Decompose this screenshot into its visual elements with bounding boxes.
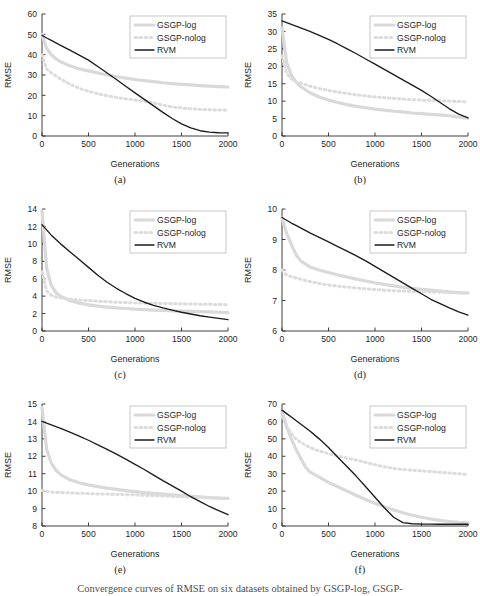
- svg-text:10: 10: [267, 204, 277, 214]
- legend-label-gsgp-nolog: GSGP-nolog: [157, 423, 206, 433]
- svg-text:35: 35: [267, 9, 277, 19]
- legend-label-gsgp-log: GSGP-log: [157, 20, 196, 30]
- x-axis-label: Generations: [350, 354, 400, 364]
- y-axis-label: RMSE: [243, 452, 253, 478]
- svg-text:15: 15: [27, 399, 37, 409]
- chart-panel-d: 6789100500100015002000GenerationsRMSEGSG…: [240, 195, 480, 390]
- chart-legend: GSGP-logGSGP-nologRVM: [130, 211, 226, 253]
- x-axis-label: Generations: [350, 159, 400, 169]
- svg-text:2000: 2000: [218, 139, 237, 149]
- svg-text:11: 11: [28, 469, 37, 479]
- svg-text:2000: 2000: [458, 529, 477, 539]
- chart-svg: 0102030405060700500100015002000Generatio…: [240, 390, 480, 562]
- y-axis-label: RMSE: [3, 452, 13, 478]
- y-axis-label: RMSE: [243, 257, 253, 283]
- svg-text:0: 0: [280, 529, 285, 539]
- svg-text:2000: 2000: [218, 334, 237, 344]
- svg-text:10: 10: [267, 96, 277, 106]
- svg-text:60: 60: [267, 417, 277, 427]
- svg-text:1500: 1500: [412, 334, 431, 344]
- svg-text:500: 500: [321, 334, 336, 344]
- svg-text:30: 30: [27, 70, 37, 80]
- svg-text:10: 10: [27, 111, 37, 121]
- svg-text:500: 500: [81, 529, 96, 539]
- svg-text:30: 30: [267, 469, 277, 479]
- series-line-gsgp-nolog: [282, 56, 468, 102]
- x-axis-label: Generations: [110, 159, 160, 169]
- chart-svg: 024681012140500100015002000GenerationsRM…: [0, 195, 240, 367]
- legend-label-gsgp-log: GSGP-log: [157, 215, 196, 225]
- chart-panel-f: 0102030405060700500100015002000Generatio…: [240, 390, 480, 580]
- series-line-gsgp-nolog: [42, 55, 228, 111]
- svg-text:500: 500: [81, 139, 96, 149]
- svg-text:9: 9: [272, 235, 277, 245]
- plot-area: 01020304050600500100015002000Generations…: [0, 0, 240, 172]
- svg-text:6: 6: [272, 326, 277, 336]
- legend-label-gsgp-log: GSGP-log: [397, 410, 436, 420]
- svg-text:8: 8: [32, 256, 37, 266]
- svg-text:10: 10: [267, 504, 277, 514]
- plot-area: 6789100500100015002000GenerationsRMSEGSG…: [240, 195, 480, 367]
- svg-text:1500: 1500: [172, 334, 191, 344]
- svg-text:0: 0: [32, 131, 37, 141]
- chart-legend: GSGP-logGSGP-nologRVM: [370, 16, 466, 58]
- legend-label-rvm: RVM: [397, 45, 416, 55]
- svg-text:9: 9: [32, 504, 37, 514]
- series-line-gsgp-nolog: [42, 272, 228, 305]
- svg-text:0: 0: [40, 334, 45, 344]
- x-axis-label: Generations: [110, 354, 160, 364]
- svg-text:0: 0: [280, 139, 285, 149]
- svg-text:1000: 1000: [365, 529, 384, 539]
- panel-label: (d): [240, 369, 480, 380]
- svg-text:1000: 1000: [125, 334, 144, 344]
- svg-text:25: 25: [267, 44, 277, 54]
- chart-panel-e: 891011121314150500100015002000Generation…: [0, 390, 240, 580]
- figure-caption-clip: Convergence curves of RMSE on six datase…: [0, 582, 480, 596]
- chart-legend: GSGP-logGSGP-nologRVM: [130, 406, 226, 448]
- svg-text:0: 0: [272, 131, 277, 141]
- legend-label-gsgp-log: GSGP-log: [397, 215, 436, 225]
- panel-label: (c): [0, 369, 240, 380]
- chart-svg: 01020304050600500100015002000Generations…: [0, 0, 240, 172]
- svg-text:14: 14: [27, 204, 37, 214]
- legend-label-gsgp-nolog: GSGP-nolog: [397, 33, 446, 43]
- panel-label: (e): [0, 564, 240, 575]
- x-axis-label: Generations: [350, 549, 400, 559]
- svg-text:5: 5: [272, 114, 277, 124]
- svg-text:2000: 2000: [218, 529, 237, 539]
- svg-text:1000: 1000: [125, 139, 144, 149]
- legend-label-gsgp-log: GSGP-log: [397, 20, 436, 30]
- svg-text:60: 60: [27, 9, 37, 19]
- chart-legend: GSGP-logGSGP-nologRVM: [370, 406, 466, 448]
- svg-text:15: 15: [267, 79, 277, 89]
- panel-label: (b): [240, 174, 480, 185]
- svg-text:500: 500: [321, 139, 336, 149]
- chart-panel-c: 024681012140500100015002000GenerationsRM…: [0, 195, 240, 390]
- legend-label-gsgp-nolog: GSGP-nolog: [397, 423, 446, 433]
- svg-text:6: 6: [32, 274, 37, 284]
- svg-text:40: 40: [267, 451, 277, 461]
- svg-text:1000: 1000: [365, 139, 384, 149]
- legend-label-rvm: RVM: [397, 240, 416, 250]
- svg-text:0: 0: [40, 139, 45, 149]
- svg-text:0: 0: [272, 521, 277, 531]
- figure-caption: Convergence curves of RMSE on six datase…: [0, 582, 480, 595]
- plot-area: 891011121314150500100015002000Generation…: [0, 390, 240, 562]
- chart-panel-a: 01020304050600500100015002000Generations…: [0, 0, 240, 195]
- svg-text:20: 20: [27, 91, 37, 101]
- svg-text:8: 8: [272, 265, 277, 275]
- svg-text:12: 12: [27, 222, 37, 232]
- svg-text:0: 0: [280, 334, 285, 344]
- svg-text:10: 10: [27, 486, 37, 496]
- svg-text:1000: 1000: [125, 529, 144, 539]
- svg-text:20: 20: [267, 486, 277, 496]
- legend-label-gsgp-nolog: GSGP-nolog: [157, 33, 206, 43]
- svg-text:10: 10: [27, 239, 37, 249]
- svg-text:50: 50: [267, 434, 277, 444]
- legend-label-rvm: RVM: [157, 435, 176, 445]
- svg-text:7: 7: [272, 296, 277, 306]
- svg-text:2: 2: [32, 309, 37, 319]
- svg-text:2000: 2000: [458, 139, 477, 149]
- y-axis-label: RMSE: [3, 62, 13, 88]
- svg-text:12: 12: [27, 451, 37, 461]
